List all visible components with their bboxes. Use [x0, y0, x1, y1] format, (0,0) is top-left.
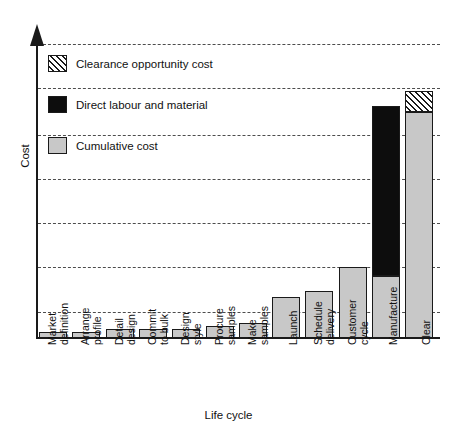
- x-axis-label-line: samples: [258, 306, 270, 345]
- x-axis-label-11: Clear: [421, 320, 433, 345]
- x-axis-label-line: Detail: [114, 314, 126, 345]
- x-axis-label-9: Customercycle: [347, 299, 370, 345]
- x-axis-label-line: Customer: [347, 299, 359, 345]
- x-axis-label-line: Manufacture: [388, 287, 400, 345]
- x-axis-label-4: Designstyle: [180, 312, 203, 345]
- x-axis-label-0: Marketdefinition: [47, 303, 70, 345]
- bar-segment-cumulative-cost: [405, 112, 433, 338]
- x-axis-label-8: Scheduledelivery: [313, 301, 336, 345]
- x-axis-label-line: samples: [225, 306, 237, 345]
- bar-segment-direct-labour-and-material: [372, 106, 400, 277]
- legend-label: Clearance opportunity cost: [76, 58, 213, 70]
- bar-segment-clearance-opportunity-cost: [405, 91, 433, 112]
- x-axis-label-line: to bulk: [158, 309, 170, 345]
- x-axis-label-line: Commit: [147, 309, 159, 345]
- x-axis-label-line: style: [192, 312, 204, 345]
- hatch-pattern: [406, 92, 432, 111]
- x-axis-label-line: Make: [247, 306, 259, 345]
- x-axis-label-line: Procure: [214, 306, 226, 345]
- x-axis-label-6: Makesamples: [247, 306, 270, 345]
- x-axis-label-line: cycle: [358, 299, 370, 345]
- y-axis-title: Cost: [19, 126, 31, 186]
- legend-swatch-direct-icon: [48, 96, 67, 113]
- x-axis-label-5: Procuresamples: [214, 306, 237, 345]
- legend-swatch-clearance-icon: [48, 55, 67, 72]
- bar-clear: [405, 91, 433, 338]
- x-axis-label-line: design: [125, 314, 137, 345]
- x-axis-label-line: definition: [59, 303, 71, 345]
- x-axis-title: Life cycle: [0, 409, 457, 421]
- x-axis-label-10: Manufacture: [388, 287, 400, 345]
- x-axis-label-line: Clear: [421, 320, 433, 345]
- legend-item-direct: Direct labour and material: [48, 96, 208, 113]
- cost-life-cycle-bar-chart: MarketdefinitionArrangeprofileDetaildesi…: [0, 0, 457, 444]
- legend-item-cumulative: Cumulative cost: [48, 137, 158, 154]
- legend-swatch-cumulative-icon: [48, 137, 67, 154]
- x-axis-label-3: Committo bulk: [147, 309, 170, 345]
- x-axis-label-line: Design: [180, 312, 192, 345]
- x-axis-label-7: Launch: [288, 311, 300, 345]
- x-axis-label-line: Market: [47, 303, 59, 345]
- x-axis-label-line: Launch: [288, 311, 300, 345]
- x-axis-label-line: profile: [92, 308, 104, 345]
- legend-item-clearance: Clearance opportunity cost: [48, 55, 213, 72]
- legend-label: Direct labour and material: [76, 99, 208, 111]
- x-axis-label-2: Detaildesign: [114, 314, 137, 345]
- hatch-pattern: [49, 56, 66, 71]
- x-axis-label-line: delivery: [325, 301, 337, 345]
- legend-label: Cumulative cost: [76, 140, 158, 152]
- x-axis-label-1: Arrangeprofile: [80, 308, 103, 345]
